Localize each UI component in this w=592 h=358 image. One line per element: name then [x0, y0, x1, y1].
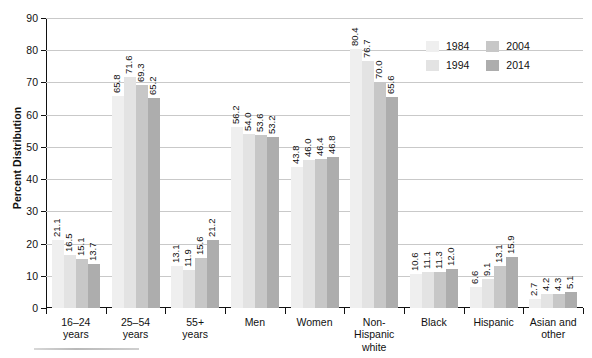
- bar-value-label: 46.4: [314, 137, 325, 156]
- bar-value-label: 11.9: [182, 249, 193, 267]
- bar[interactable]: [231, 127, 243, 308]
- bar[interactable]: [541, 294, 553, 308]
- bar-item[interactable]: 65.2: [148, 18, 160, 308]
- x-tick-mark: [583, 308, 584, 314]
- bar-value-label: 15.6: [194, 236, 205, 255]
- bar[interactable]: [529, 299, 541, 308]
- bar[interactable]: [374, 82, 386, 308]
- bar[interactable]: [183, 270, 195, 308]
- y-tick-label: 90: [26, 12, 38, 24]
- bar-item[interactable]: 21.1: [52, 18, 64, 308]
- bar[interactable]: [255, 135, 267, 308]
- bar-item[interactable]: 46.0: [303, 18, 315, 308]
- bar[interactable]: [350, 49, 362, 308]
- y-tick-label: 40: [26, 173, 38, 185]
- x-tick-mark: [523, 308, 524, 314]
- bar-item[interactable]: 71.6: [124, 18, 136, 308]
- bar-item[interactable]: 70.0: [374, 18, 386, 308]
- bar-item[interactable]: 54.0: [243, 18, 255, 308]
- x-axis-category-label: Men: [225, 316, 285, 353]
- bar[interactable]: [362, 61, 374, 308]
- bar-value-label: 9.1: [481, 262, 492, 275]
- x-axis-category-label: Hispanic: [464, 316, 524, 353]
- bar-value-label: 43.8: [290, 145, 301, 164]
- bar[interactable]: [482, 279, 494, 308]
- bar[interactable]: [243, 134, 255, 308]
- bar-value-label: 56.2: [230, 105, 241, 124]
- bar-item[interactable]: 46.4: [315, 18, 327, 308]
- bar[interactable]: [434, 272, 446, 308]
- bar-chart: Percent Distribution 0102030405060708090…: [0, 0, 592, 358]
- bar-value-label: 76.7: [361, 39, 372, 58]
- y-tick-label: 30: [26, 205, 38, 217]
- bar[interactable]: [446, 269, 458, 308]
- x-tick-mark: [165, 308, 166, 314]
- legend-swatch: [426, 60, 439, 71]
- bar[interactable]: [124, 77, 136, 308]
- bar[interactable]: [64, 255, 76, 308]
- bar-item[interactable]: 56.2: [231, 18, 243, 308]
- bar[interactable]: [148, 98, 160, 308]
- x-axis-ticks: [46, 308, 583, 314]
- x-axis-category-label: 55+ years: [165, 316, 225, 353]
- bar[interactable]: [565, 292, 577, 308]
- bar[interactable]: [315, 159, 327, 309]
- bar-value-label: 12.0: [445, 248, 456, 267]
- bar-item[interactable]: 15.6: [195, 18, 207, 308]
- y-tick-label: 60: [26, 109, 38, 121]
- bar[interactable]: [410, 274, 422, 308]
- bar-group-bars: 13.111.915.621.2: [165, 18, 225, 308]
- bar-item[interactable]: 53.6: [255, 18, 267, 308]
- bar-value-label: 70.0: [373, 61, 384, 80]
- bar-value-label: 10.6: [409, 252, 420, 271]
- bar-value-label: 69.3: [135, 63, 146, 82]
- bar-value-label: 13.1: [170, 244, 181, 263]
- bar-item[interactable]: 43.8: [291, 18, 303, 308]
- bar[interactable]: [303, 160, 315, 308]
- bar[interactable]: [291, 167, 303, 308]
- y-tick-label: 20: [26, 238, 38, 250]
- x-tick-mark: [225, 308, 226, 314]
- bar-group: 65.871.669.365.2: [106, 18, 166, 308]
- x-axis-category-label: Asian and other: [523, 316, 583, 353]
- bar-item[interactable]: 46.8: [327, 18, 339, 308]
- bar-group-bars: 56.254.053.653.2: [225, 18, 285, 308]
- bar-item[interactable]: 16.5: [64, 18, 76, 308]
- bar[interactable]: [470, 287, 482, 308]
- x-tick-mark: [344, 308, 345, 314]
- bar-item[interactable]: 21.2: [207, 18, 219, 308]
- bar[interactable]: [136, 85, 148, 308]
- bar[interactable]: [386, 97, 398, 308]
- bar[interactable]: [553, 294, 565, 308]
- y-tick-label: 50: [26, 141, 38, 153]
- bar-item[interactable]: 5.1: [565, 18, 577, 308]
- bar[interactable]: [422, 272, 434, 308]
- bar-value-label: 4.3: [552, 278, 563, 291]
- bar-item[interactable]: 65.8: [112, 18, 124, 308]
- bar-item[interactable]: 4.3: [553, 18, 565, 308]
- bar[interactable]: [195, 258, 207, 308]
- bar[interactable]: [112, 96, 124, 308]
- bar[interactable]: [327, 157, 339, 308]
- y-tick-label: 10: [26, 270, 38, 282]
- bar-group-bars: 21.116.515.113.7: [46, 18, 106, 308]
- bar[interactable]: [171, 266, 183, 308]
- x-tick-mark: [404, 308, 405, 314]
- bar-group-bars: 65.871.669.365.2: [106, 18, 166, 308]
- bar-value-label: 16.5: [63, 233, 74, 252]
- x-tick-mark: [46, 308, 47, 314]
- bar-item[interactable]: 13.7: [88, 18, 100, 308]
- bar[interactable]: [267, 137, 279, 308]
- bar[interactable]: [76, 259, 88, 308]
- bar-item[interactable]: 53.2: [267, 18, 279, 308]
- bar-item[interactable]: 80.4: [350, 18, 362, 308]
- bar-item[interactable]: 69.3: [136, 18, 148, 308]
- bar-item[interactable]: 11.9: [183, 18, 195, 308]
- bar[interactable]: [88, 264, 100, 308]
- bar[interactable]: [506, 257, 518, 308]
- bar-item[interactable]: 65.6: [386, 18, 398, 308]
- bar[interactable]: [494, 266, 506, 308]
- bar-item[interactable]: 4.2: [541, 18, 553, 308]
- bar-item[interactable]: 15.1: [76, 18, 88, 308]
- bar[interactable]: [207, 240, 219, 308]
